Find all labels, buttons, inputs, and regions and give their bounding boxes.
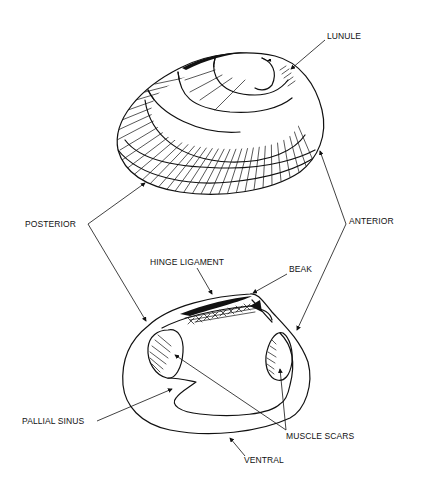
label-hinge-ligament: HINGE LIGAMENT xyxy=(150,257,224,267)
label-posterior: POSTERIOR xyxy=(25,219,76,229)
label-anterior: ANTERIOR xyxy=(349,216,394,226)
exterior-shell xyxy=(117,52,324,196)
label-pallial-sinus: PALLIAL SINUS xyxy=(22,416,84,426)
diagram-canvas: LUNULE POSTERIOR ANTERIOR HINGE LIGAMENT… xyxy=(0,0,421,497)
label-lunule: LUNULE xyxy=(327,31,361,41)
anterior-muscle-scar xyxy=(266,333,292,381)
interior-shell xyxy=(123,294,310,434)
label-muscle-scars: MUSCLE SCARS xyxy=(286,431,354,441)
label-beak: BEAK xyxy=(289,264,312,274)
label-ventral: VENTRAL xyxy=(244,455,284,465)
